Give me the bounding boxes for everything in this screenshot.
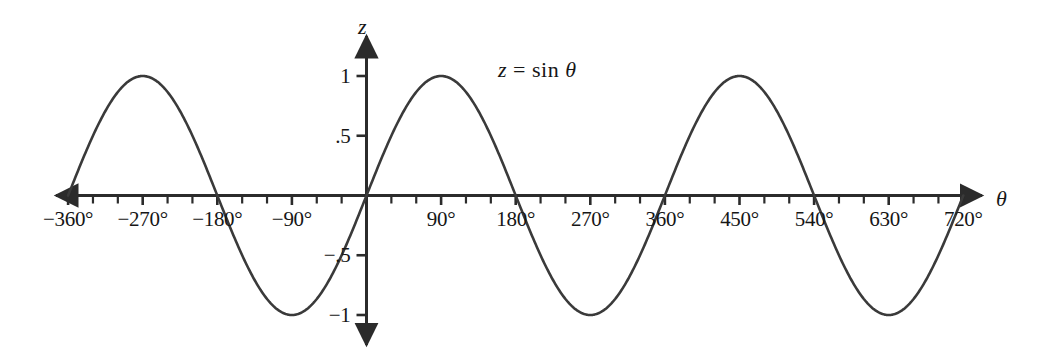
- equation-operator: =: [513, 57, 526, 82]
- x-tick-label: −360°: [43, 207, 93, 232]
- equation-annotation: z = sin θ: [498, 57, 576, 83]
- x-tick-label: 630°: [869, 207, 908, 232]
- x-tick-label: 720°: [944, 207, 983, 232]
- x-tick-label: −180°: [192, 207, 242, 232]
- y-tick-label: −1: [329, 303, 351, 328]
- x-tick-label: 180°: [496, 207, 535, 232]
- x-tick-label: 90°: [427, 207, 456, 232]
- equation-variable: θ: [565, 57, 576, 82]
- x-tick-label: −270°: [118, 207, 168, 232]
- x-tick-label: 360°: [646, 207, 685, 232]
- sine-curve-figure: z θ z = sin θ −360°−270°−180°−90°90°180°…: [0, 0, 1040, 361]
- x-tick-label: 450°: [720, 207, 759, 232]
- equation-lhs: z: [498, 57, 507, 82]
- x-axis-label: θ: [996, 186, 1007, 212]
- equation-function: sin: [532, 57, 559, 82]
- y-axis-label: z: [358, 14, 367, 40]
- y-tick-label: 1: [340, 64, 350, 89]
- x-tick-label: 540°: [795, 207, 834, 232]
- x-tick-label: −90°: [272, 207, 312, 232]
- plot-canvas: [0, 0, 1040, 361]
- x-tick-label: 270°: [571, 207, 610, 232]
- y-tick-label: .5: [335, 123, 350, 148]
- y-tick-label: −.5: [324, 243, 351, 268]
